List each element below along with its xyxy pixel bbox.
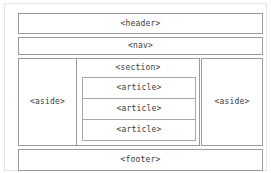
footer-label: <footer> (120, 156, 160, 164)
header-label: <header> (120, 20, 160, 28)
section-label: <section> (77, 64, 199, 72)
article-block: <article> (82, 98, 196, 120)
header-block: <header> (18, 13, 263, 34)
article-stack: <article> <article> <article> (82, 77, 196, 141)
section-block: <section> <article> <article> <article> (76, 58, 200, 146)
aside-left-block: <aside> (18, 58, 77, 146)
diagram-outer-frame: <header> <nav> <aside> <section> <articl… (4, 3, 267, 171)
aside-right-block: <aside> (201, 58, 263, 146)
article-label: <article> (116, 126, 161, 134)
nav-label: <nav> (128, 42, 153, 50)
nav-block: <nav> (18, 37, 263, 55)
article-block: <article> (82, 119, 196, 141)
article-label: <article> (116, 84, 161, 92)
article-label: <article> (116, 105, 161, 113)
footer-block: <footer> (18, 149, 263, 171)
aside-left-label: <aside> (30, 98, 65, 106)
article-block: <article> (82, 77, 196, 99)
aside-right-label: <aside> (214, 98, 249, 106)
